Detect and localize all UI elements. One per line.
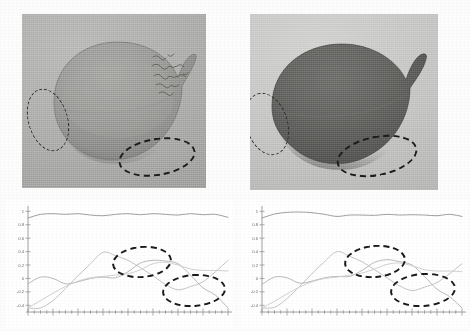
svg-text:0.4: 0.4 xyxy=(252,249,258,254)
svg-text:-0.4: -0.4 xyxy=(251,303,259,308)
vessel-photograph-right xyxy=(250,14,438,190)
chart-series-top-flat-curve xyxy=(262,212,462,218)
vessel-photograph-left xyxy=(22,14,206,188)
svg-text:-0.2: -0.2 xyxy=(251,289,259,294)
svg-text:-0.4: -0.4 xyxy=(17,303,25,308)
chart-series-top-flat-curve xyxy=(28,214,228,218)
svg-text:1: 1 xyxy=(22,209,25,214)
svg-text:0.2: 0.2 xyxy=(18,263,24,268)
svg-text:0.6: 0.6 xyxy=(252,236,258,241)
svg-text:0: 0 xyxy=(22,276,25,281)
svg-text:0.8: 0.8 xyxy=(252,222,258,227)
svg-text:1: 1 xyxy=(256,209,259,214)
svg-text:-0.2: -0.2 xyxy=(17,289,25,294)
line-chart-right: 10.80.60.40.20-0.2-0.4 xyxy=(240,200,468,328)
figure-container: 10.80.60.40.20-0.2-0.4 10.80.60.40.20-0.… xyxy=(0,0,470,331)
svg-text:0.8: 0.8 xyxy=(18,222,24,227)
svg-text:0.2: 0.2 xyxy=(252,263,258,268)
svg-text:0: 0 xyxy=(256,276,259,281)
svg-text:0.6: 0.6 xyxy=(18,236,24,241)
svg-text:0.4: 0.4 xyxy=(18,249,24,254)
line-chart-left: 10.80.60.40.20-0.2-0.4 xyxy=(6,200,234,328)
